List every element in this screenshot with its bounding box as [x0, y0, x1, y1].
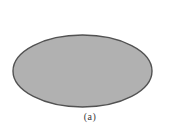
figure-panel: (a) — [0, 0, 169, 135]
gray-ellipse — [13, 35, 152, 107]
figure-caption: (a) — [84, 110, 97, 123]
